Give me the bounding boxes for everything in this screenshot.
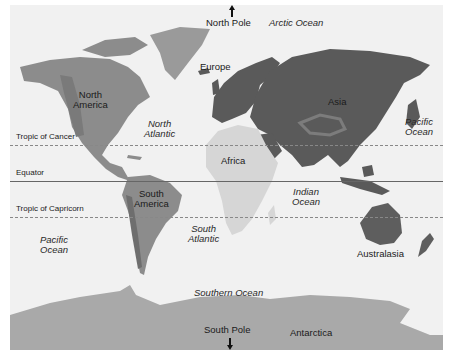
- europe-label: Europe: [200, 62, 231, 72]
- south-atlantic-label: South Atlantic: [188, 224, 219, 244]
- new-zealand: [418, 233, 434, 257]
- south-america-label: South America: [134, 189, 169, 209]
- north-pole-label: North Pole: [206, 18, 251, 28]
- africa-label: Africa: [221, 156, 245, 166]
- asia-label: Asia: [328, 97, 346, 107]
- australasia-label: Australasia: [357, 249, 404, 259]
- madagascar: [268, 205, 276, 225]
- south-pole-arrow-icon: [227, 338, 233, 350]
- north-america-label: North America: [73, 90, 108, 110]
- arctic-islands: [82, 37, 148, 57]
- world-map: Tropic of Cancer Equator Tropic of Capri…: [10, 5, 443, 350]
- equator-line: [10, 181, 443, 182]
- tropic-of-cancer-line: [10, 145, 443, 146]
- north-atlantic-label: North Atlantic: [144, 119, 175, 139]
- south-pole-label: South Pole: [204, 325, 250, 335]
- pacific-ocean-west-label: Pacific Ocean: [40, 235, 68, 255]
- tropic-of-capricorn-label: Tropic of Capricorn: [16, 205, 84, 213]
- pacific-ocean-east-label: Pacific Ocean: [405, 117, 433, 137]
- arctic-ocean-label: Arctic Ocean: [269, 18, 323, 28]
- tropic-of-cancer-label: Tropic of Cancer: [16, 133, 75, 141]
- equator-label: Equator: [16, 169, 44, 177]
- australia-shape: [360, 203, 402, 245]
- land-shapes: [10, 5, 443, 350]
- north-pole-arrow-icon: [229, 5, 235, 17]
- antarctica-label: Antarctica: [290, 328, 332, 338]
- indian-ocean-label: Indian Ocean: [292, 187, 320, 207]
- tropic-of-capricorn-line: [10, 217, 443, 218]
- uk: [212, 79, 220, 95]
- north-america-shape: [20, 57, 150, 181]
- southern-ocean-label: Southern Ocean: [194, 288, 263, 298]
- indonesia: [340, 177, 390, 195]
